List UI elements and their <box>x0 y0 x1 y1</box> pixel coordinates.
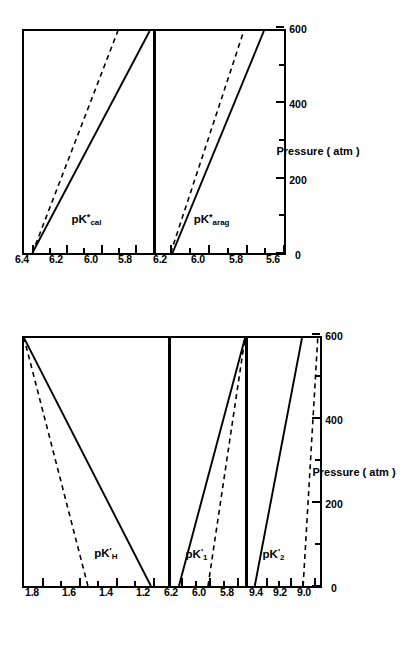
y-axis-title-pKcal: pK*cal <box>72 212 102 227</box>
y-tick-major <box>208 245 210 253</box>
x-tick-label: 400 <box>282 98 314 110</box>
x-tick-minor <box>279 139 284 141</box>
y-tick-major <box>246 245 248 253</box>
chart-group-right: 0200400600 Pressure ( atm ) 6.46.26.05.8… <box>22 29 286 255</box>
y-tick-major <box>209 578 211 586</box>
series-line-dashed <box>24 338 88 586</box>
y-tick-major <box>101 245 103 253</box>
x-tick-label: 0 <box>318 582 350 594</box>
y-axis-title-pK1: pK'1 <box>186 547 208 562</box>
y-tick-label: 6.0 <box>171 253 205 265</box>
plot-lines-pK1 <box>171 338 245 586</box>
y-tick-major <box>153 578 155 586</box>
series-line-dashed <box>208 338 245 586</box>
y-axis-labels-left: 1.81.61.41.26.26.05.89.49.29.0pK'HpK'1pK… <box>22 588 322 648</box>
y-axis-title-pKarag: pK*arag <box>194 212 230 227</box>
x-tick-label: 400 <box>318 414 350 426</box>
y-tick-label: 6.2 <box>133 253 167 265</box>
x-axis-title-right: Pressure ( atm ) <box>276 145 359 157</box>
y-tick-label: 5.8 <box>209 253 243 265</box>
y-tick-label: 6.4 <box>0 253 29 265</box>
y-axis-title-pKH: pK'H <box>94 547 117 562</box>
x-axis-left: 0200400600 <box>322 336 368 588</box>
x-tick-minor <box>315 375 320 377</box>
y-tick-label: 6.0 <box>64 253 98 265</box>
x-tick-minor <box>315 459 320 461</box>
figure-canvas: 0200400600 Pressure ( atm ) 1.81.61.41.2… <box>0 0 407 650</box>
y-tick-major <box>266 578 268 586</box>
x-tick-label: 200 <box>282 174 314 186</box>
panel-pK1 <box>169 336 247 588</box>
y-tick-major <box>135 245 137 253</box>
x-tick-minor <box>279 64 284 66</box>
y-tick-label: 1.6 <box>42 586 76 598</box>
figure-stage: 0200400600 Pressure ( atm ) 1.81.61.41.2… <box>0 0 407 650</box>
y-axis-title-pK2: pK'2 <box>263 547 285 562</box>
y-tick-major <box>66 245 68 253</box>
y-tick-major <box>290 578 292 586</box>
y-axis-labels-right: 6.46.26.05.86.26.05.85.6pK*calpK*arag <box>22 255 286 317</box>
y-tick-label: 9.0 <box>277 586 311 598</box>
y-tick-major <box>42 578 44 586</box>
series-line-solid <box>24 338 151 586</box>
y-tick-label: 6.2 <box>29 253 63 265</box>
chart-group-left: 0200400600 Pressure ( atm ) 1.81.61.41.2… <box>22 336 322 588</box>
y-tick-label: 1.4 <box>79 586 113 598</box>
y-tick-label: 1.8 <box>5 586 39 598</box>
y-tick-label: 5.6 <box>246 253 280 265</box>
y-tick-major <box>79 578 81 586</box>
y-tick-major <box>32 245 34 253</box>
y-tick-major <box>237 578 239 586</box>
x-tick-minor <box>315 543 320 545</box>
x-tick-label: 600 <box>318 330 350 342</box>
x-tick-label: 0 <box>282 249 314 261</box>
y-tick-major <box>116 578 118 586</box>
x-tick-label: 600 <box>282 23 314 35</box>
x-axis-title-left: Pressure ( atm ) <box>312 466 395 478</box>
x-axis-right: 0200400600 <box>286 29 332 255</box>
y-tick-major <box>181 578 183 586</box>
x-tick-minor <box>279 214 284 216</box>
x-tick-label: 200 <box>318 498 350 510</box>
y-tick-label: 5.8 <box>98 253 132 265</box>
y-tick-major <box>170 245 172 253</box>
